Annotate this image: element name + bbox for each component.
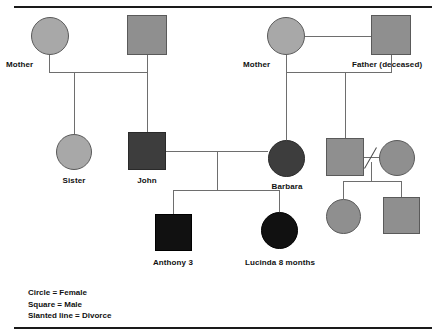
- person-label-mother-left: Mother: [6, 60, 33, 69]
- legend: Circle = Female Square = Male Slanted li…: [28, 287, 111, 322]
- union-bar-right-family: [286, 72, 392, 73]
- descent-line-right-brother: [345, 72, 346, 138]
- person-label-mother-right: Mother: [243, 60, 270, 69]
- bottom-divider-rule: [14, 327, 432, 329]
- descent-line-anthony: [173, 190, 174, 214]
- person-node-mother-left[interactable]: [31, 17, 69, 55]
- descent-line-lucinda: [279, 190, 280, 212]
- genogram-diagram: Mother Sister John Mother Father (deceas…: [0, 0, 442, 336]
- person-node-sister[interactable]: [56, 134, 92, 170]
- legend-line-slant: Slanted line = Divorce: [28, 310, 111, 322]
- person-node-right-son[interactable]: [383, 197, 420, 234]
- person-label-sister: Sister: [63, 176, 86, 185]
- person-node-right-daughter[interactable]: [326, 199, 361, 234]
- person-node-father-right[interactable]: [371, 15, 411, 55]
- union-drop-mother-right: [286, 55, 287, 73]
- descent-line-right-daughter: [343, 181, 344, 199]
- person-node-right-sister-in-law[interactable]: [379, 140, 415, 176]
- person-node-john[interactable]: [128, 132, 166, 170]
- union-drop-mother-left: [49, 55, 50, 73]
- sibship-bar-right-couple: [343, 181, 401, 182]
- person-node-right-brother[interactable]: [326, 138, 364, 176]
- legend-line-square: Square = Male: [28, 299, 111, 311]
- person-node-barbara[interactable]: [268, 140, 305, 177]
- legend-line-circle: Circle = Female: [28, 287, 111, 299]
- marriage-bar-right-family: [305, 36, 371, 37]
- descent-line-barbara: [286, 72, 287, 140]
- person-label-john: John: [137, 176, 157, 185]
- top-divider-rule: [14, 6, 432, 8]
- person-node-father-left[interactable]: [127, 15, 167, 55]
- person-node-anthony[interactable]: [155, 214, 192, 251]
- descent-line-right-son: [401, 181, 402, 197]
- person-label-lucinda: Lucinda 8 months: [245, 258, 315, 267]
- sibship-bar-john-barbara: [173, 190, 279, 191]
- person-label-father-right: Father (deceased): [352, 60, 422, 69]
- descent-line-john: [147, 72, 148, 132]
- person-label-anthony: Anthony 3: [153, 258, 193, 267]
- person-node-mother-right[interactable]: [267, 17, 305, 55]
- union-drop-father-left: [147, 55, 148, 73]
- union-drop-father-right: [391, 55, 392, 73]
- sibship-drop-right-couple: [371, 162, 372, 181]
- person-node-lucinda[interactable]: [261, 212, 298, 249]
- descent-line-sister: [74, 72, 75, 134]
- union-bar-left-family: [49, 72, 148, 73]
- sibship-drop-john-barbara: [217, 151, 218, 190]
